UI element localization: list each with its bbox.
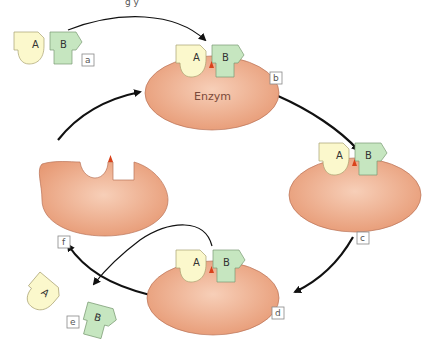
arrow-a-to-b bbox=[68, 17, 205, 40]
step-e-products: A B bbox=[19, 272, 118, 341]
arrow-d-to-f bbox=[68, 245, 150, 295]
arrow-f-to-b bbox=[58, 92, 140, 140]
substrate-a-shape bbox=[14, 32, 44, 64]
substrate-b-label: B bbox=[60, 39, 67, 50]
enzyme-label: Enzym bbox=[194, 90, 231, 103]
title-fragment: g y bbox=[125, 0, 140, 7]
svg-text:e: e bbox=[70, 317, 76, 327]
svg-text:B: B bbox=[222, 52, 229, 63]
step-b-enzyme-complex: A B Enzym bbox=[145, 45, 279, 130]
step-label-d: d bbox=[272, 307, 284, 319]
arrow-b-to-c bbox=[278, 96, 358, 150]
step-label-b: b bbox=[270, 72, 282, 84]
svg-text:d: d bbox=[275, 308, 281, 318]
step-label-e: e bbox=[67, 316, 79, 328]
svg-text:B: B bbox=[223, 257, 230, 268]
step-a-substrates: A B bbox=[14, 32, 82, 64]
step-label-f: f bbox=[58, 236, 70, 248]
enzyme-cycle-diagram: g y A B a A B Enzym b bbox=[0, 0, 428, 357]
arrow-c-to-d bbox=[295, 237, 353, 292]
step-d-enzyme-complex: A B bbox=[147, 250, 279, 335]
enzyme-body bbox=[289, 158, 421, 232]
svg-text:c: c bbox=[360, 233, 365, 243]
step-f-free-enzyme bbox=[39, 155, 168, 236]
svg-text:A: A bbox=[193, 257, 200, 268]
active-site-icon bbox=[108, 155, 113, 162]
step-c-enzyme-complex: A B bbox=[289, 143, 421, 232]
enzyme-body-with-sites bbox=[39, 162, 168, 237]
svg-text:A: A bbox=[193, 52, 200, 63]
step-label-c: c bbox=[357, 232, 369, 244]
substrate-a-label: A bbox=[32, 39, 39, 50]
svg-text:A: A bbox=[336, 150, 343, 161]
svg-text:B: B bbox=[365, 150, 372, 161]
svg-text:a: a bbox=[85, 55, 91, 65]
svg-text:b: b bbox=[273, 73, 279, 83]
step-label-a: a bbox=[82, 54, 94, 66]
diagram-canvas: g y A B a A B Enzym b bbox=[0, 0, 428, 357]
